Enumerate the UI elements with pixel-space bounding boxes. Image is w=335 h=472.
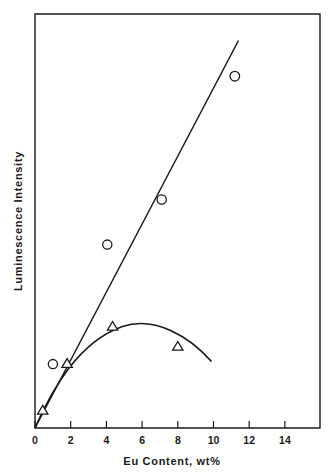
data-point-circle xyxy=(230,71,240,81)
triangle-series-fit-curve xyxy=(35,324,212,428)
data-point-circle xyxy=(48,360,57,369)
data-point-circle xyxy=(157,195,166,204)
x-axis-title: Eu Content, wt% xyxy=(123,455,220,467)
figure-container: 0 2 4 6 8 10 12 14 Eu Content, xyxy=(0,0,335,472)
x-tick-label: 8 xyxy=(175,434,181,446)
x-tick-label: 6 xyxy=(139,434,145,446)
data-point-circle xyxy=(103,240,112,249)
plot-frame xyxy=(35,14,320,428)
x-tick-label: 0 xyxy=(32,434,38,446)
x-axis-major-ticks xyxy=(35,421,285,428)
y-axis-title: Luminescence Intensity xyxy=(12,151,24,291)
x-axis-tick-labels: 0 2 4 6 8 10 12 14 xyxy=(32,434,291,446)
chart-plot: 0 2 4 6 8 10 12 14 Eu Content, xyxy=(0,0,335,472)
x-tick-label: 2 xyxy=(68,434,74,446)
circle-series-fit-line xyxy=(35,41,239,429)
data-point-triangle xyxy=(173,342,183,351)
x-tick-label: 4 xyxy=(103,434,109,446)
data-point-triangle xyxy=(107,322,117,331)
triangle-data-points xyxy=(38,322,184,415)
x-tick-label: 10 xyxy=(208,434,220,446)
x-tick-label: 14 xyxy=(279,434,291,446)
x-tick-label: 12 xyxy=(243,434,255,446)
